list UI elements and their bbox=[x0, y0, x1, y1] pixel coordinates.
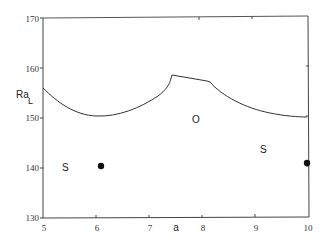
annotation-s-left: S bbox=[62, 162, 69, 173]
y-tick-label: 150 bbox=[26, 113, 40, 123]
top-axis bbox=[43, 16, 308, 18]
y-tick-label: 160 bbox=[26, 64, 40, 74]
marker-min-dot bbox=[98, 163, 104, 169]
x-tick-label: 6 bbox=[95, 223, 100, 233]
x-tick-label: 10 bbox=[304, 223, 314, 233]
marker-end-dot bbox=[304, 160, 310, 166]
x-tick-label: 5 bbox=[42, 223, 47, 233]
y-tick-label: 130 bbox=[26, 213, 40, 223]
curve-s-right bbox=[210, 82, 307, 117]
annotation-o: O bbox=[192, 114, 200, 125]
y-ticks bbox=[40, 18, 309, 218]
x-axis-title: a bbox=[173, 222, 179, 233]
x-ticks bbox=[96, 16, 255, 218]
curve-o-plateau bbox=[171, 75, 210, 82]
y-axis-title-subscript: L bbox=[28, 96, 33, 106]
curve-s-left bbox=[43, 78, 171, 116]
y-tick-label: 140 bbox=[26, 163, 40, 173]
x-axis bbox=[43, 217, 309, 218]
y-tick-label: 170 bbox=[26, 14, 40, 24]
annotation-s-right: S bbox=[260, 144, 267, 155]
x-tick-label: 7 bbox=[148, 223, 153, 233]
chart-canvas: 130 140 150 160 170 5 6 7 8 9 10 Ra L a … bbox=[0, 0, 325, 245]
x-tick-label: 9 bbox=[254, 223, 259, 233]
x-tick-label: 8 bbox=[201, 223, 206, 233]
